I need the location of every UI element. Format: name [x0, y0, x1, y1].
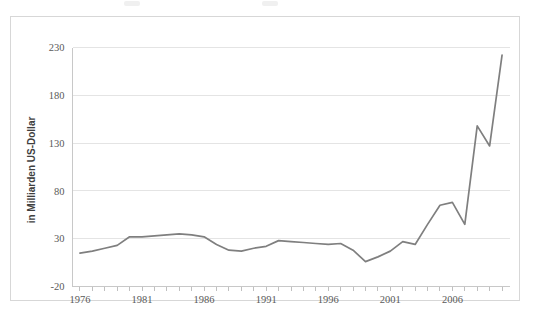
- y-tick-label: -20: [51, 281, 65, 292]
- data-series-group: [80, 55, 502, 261]
- x-tick-label: 1986: [194, 294, 215, 305]
- x-tick-label: 1991: [256, 294, 277, 305]
- line-chart: 2301801308030-20 19761981198619911996200…: [0, 0, 544, 325]
- tickmarks-group: [80, 287, 502, 291]
- x-tick-labels-group: 1976198119861991199620012006: [69, 294, 462, 305]
- y-tick-label: 30: [54, 233, 65, 244]
- y-axis-title: in Milliarden US-Dollar: [26, 117, 37, 224]
- x-tick-label: 2006: [442, 294, 463, 305]
- x-tick-label: 1981: [132, 294, 153, 305]
- y-tick-label: 130: [49, 138, 65, 149]
- x-tick-label: 2001: [380, 294, 401, 305]
- y-tick-labels-group: 2301801308030-20: [49, 42, 65, 292]
- gridlines-group: [73, 48, 510, 239]
- x-tick-label: 1996: [318, 294, 339, 305]
- axes-group: [73, 48, 510, 287]
- y-tick-label: 180: [49, 90, 65, 101]
- data-line-series: [80, 55, 502, 261]
- figure-container: 2301801308030-20 19761981198619911996200…: [0, 0, 544, 325]
- y-tick-label: 80: [54, 186, 65, 197]
- y-tick-label: 230: [49, 42, 65, 53]
- x-tick-label: 1976: [69, 294, 90, 305]
